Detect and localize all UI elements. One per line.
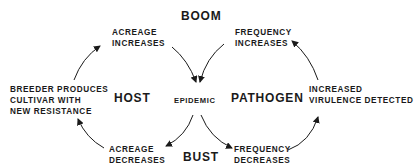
arrow-epidemic-to-frequency-decreases (201, 115, 232, 148)
node-frequency-decreases: FREQUENCY DECREASES (234, 144, 291, 166)
node-breeder-produces: BREEDER PRODUCES CULTIVAR WITH NEW RESIS… (10, 84, 108, 117)
pathogen-label: PATHOGEN (231, 91, 304, 105)
arrow-virulence-to-frequency-increases (292, 41, 318, 80)
bust-label: BUST (183, 150, 219, 164)
host-label: HOST (114, 91, 151, 105)
node-frequency-increases: FREQUENCY INCREASES (235, 27, 292, 49)
arrow-frequency-increases-to-epidemic (200, 44, 224, 82)
arrow-epidemic-to-acreage-decreases (166, 115, 193, 146)
arrow-frequency-decreases-to-virulence (288, 117, 318, 150)
arrow-breeder-to-acreage-increases (74, 46, 100, 80)
arrow-acreage-decreases-to-breeder (78, 119, 104, 148)
node-increased-virulence: INCREASED VIRULENCE DETECTED (309, 84, 414, 106)
node-acreage-decreases: ACREAGE DECREASES (109, 144, 165, 166)
epidemic-label: EPIDEMIC (174, 95, 216, 106)
arrow-acreage-increases-to-epidemic (172, 47, 196, 82)
node-acreage-increases: ACREAGE INCREASES (112, 27, 165, 49)
boom-label: BOOM (181, 9, 222, 23)
